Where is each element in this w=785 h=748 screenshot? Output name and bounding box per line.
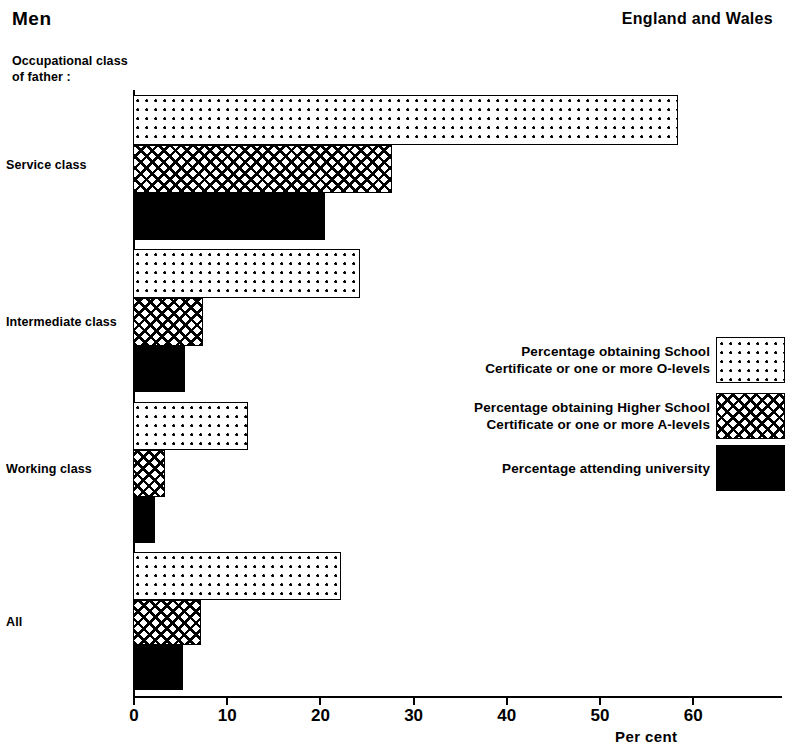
bar-service-class-series-2 xyxy=(133,145,392,193)
bar-all-series-3 xyxy=(133,645,183,690)
legend-item-1: Percentage obtaining School Certificate … xyxy=(330,337,785,383)
bar-intermediate-class-series-3 xyxy=(133,346,185,392)
bar-service-class-series-3 xyxy=(133,193,325,240)
category-label-working-class: Working class xyxy=(6,462,92,476)
legend: Percentage obtaining School Certificate … xyxy=(330,332,785,497)
x-tick-40 xyxy=(506,697,508,705)
bar-working-class-series-1 xyxy=(133,402,248,450)
x-tick-0 xyxy=(133,697,135,705)
x-tick-label-0: 0 xyxy=(129,706,138,726)
legend-swatch-dotted xyxy=(716,337,785,383)
x-axis-title: Per cent xyxy=(615,728,677,745)
y-axis-title: Occupational class of father : xyxy=(12,53,128,85)
legend-swatch-hatched xyxy=(716,393,785,439)
legend-label-2: Percentage obtaining Higher School Certi… xyxy=(474,399,716,433)
x-tick-label-40: 40 xyxy=(497,706,516,726)
region-label: England and Wales xyxy=(622,10,773,28)
category-label-intermediate-class: Intermediate class xyxy=(6,315,117,329)
category-label-service-class: Service class xyxy=(6,158,87,172)
x-tick-30 xyxy=(413,697,415,705)
x-tick-label-20: 20 xyxy=(311,706,330,726)
category-label-all: All xyxy=(6,615,22,629)
x-tick-10 xyxy=(226,697,228,705)
page-title: Men xyxy=(12,8,52,30)
x-tick-label-10: 10 xyxy=(218,706,237,726)
bar-working-class-series-2 xyxy=(133,450,165,497)
x-tick-20 xyxy=(319,697,321,705)
legend-item-3: Percentage attending university xyxy=(330,445,785,491)
x-tick-60 xyxy=(692,697,694,705)
bar-service-class-series-1 xyxy=(133,95,678,145)
x-tick-label-30: 30 xyxy=(404,706,423,726)
x-tick-label-50: 50 xyxy=(591,706,610,726)
bar-working-class-series-3 xyxy=(133,497,155,543)
legend-label-1: Percentage obtaining School Certificate … xyxy=(485,343,716,377)
bar-intermediate-class-series-2 xyxy=(133,298,203,346)
x-tick-label-60: 60 xyxy=(684,706,703,726)
legend-label-3: Percentage attending university xyxy=(502,460,716,477)
x-tick-50 xyxy=(599,697,601,705)
legend-swatch-solid xyxy=(716,445,785,491)
bar-all-series-2 xyxy=(133,600,201,645)
bar-all-series-1 xyxy=(133,552,341,600)
legend-item-2: Percentage obtaining Higher School Certi… xyxy=(330,393,785,439)
x-axis-line xyxy=(133,696,782,698)
bar-intermediate-class-series-1 xyxy=(133,249,360,298)
